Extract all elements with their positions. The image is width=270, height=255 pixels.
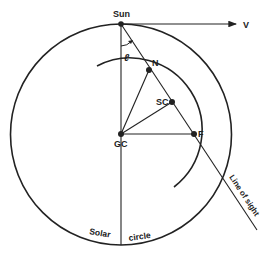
gc-n-line bbox=[121, 70, 149, 134]
gc-label: GC bbox=[114, 139, 128, 149]
n-label: N bbox=[152, 58, 159, 68]
line-of-sight bbox=[121, 24, 257, 230]
solar-circle-label-left: Solar bbox=[89, 226, 112, 240]
sun-label: Sun bbox=[113, 9, 130, 19]
f-label: F bbox=[198, 129, 204, 139]
gc-point bbox=[118, 131, 124, 137]
galactic-diagram: Sun V ℓ N SC F GC Line of sight Solar ci… bbox=[0, 0, 270, 255]
angle-label: ℓ bbox=[124, 52, 130, 63]
f-point bbox=[191, 131, 197, 137]
sc-label: SC bbox=[156, 97, 169, 107]
velocity-label: V bbox=[243, 20, 249, 30]
sc-point bbox=[169, 99, 175, 105]
sun-point bbox=[118, 21, 124, 27]
